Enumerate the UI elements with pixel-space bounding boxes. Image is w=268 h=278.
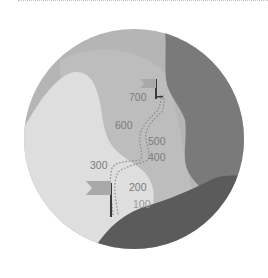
altitude-label-700: 700 xyxy=(129,91,147,103)
altitude-label-600: 600 xyxy=(115,119,133,131)
mountain-illustration: 700 600 500 400 300 200 100 xyxy=(0,0,268,278)
altitude-label-100: 100 xyxy=(133,198,151,210)
altitude-label-400: 400 xyxy=(148,151,166,163)
altitude-label-500: 500 xyxy=(148,135,166,147)
altitude-label-300: 300 xyxy=(90,159,108,171)
altitude-label-200: 200 xyxy=(129,181,147,193)
